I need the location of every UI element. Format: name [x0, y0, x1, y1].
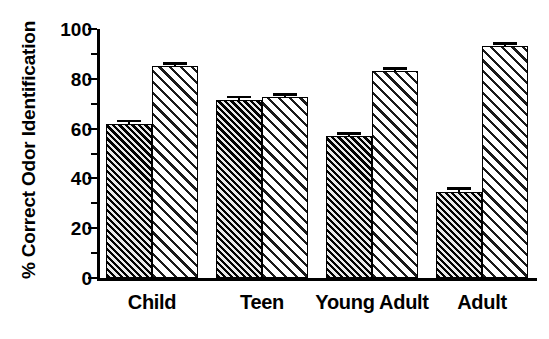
error-bar-cap	[273, 93, 297, 96]
plot-area	[97, 29, 537, 278]
x-axis-tick-label: Adult	[457, 288, 507, 316]
y-axis-tick-minor	[91, 103, 97, 105]
y-axis-tick-major	[88, 28, 97, 30]
bar	[152, 66, 198, 278]
error-bar-cap	[163, 62, 187, 65]
error-bar-cap	[337, 132, 361, 135]
bar	[372, 71, 418, 278]
y-axis-tick-minor	[91, 252, 97, 254]
error-bar-cap	[227, 96, 251, 99]
y-axis-tick-label: 80	[42, 69, 92, 88]
bar	[262, 97, 308, 278]
error-bar-cap	[117, 120, 141, 123]
x-axis-tick-label: Child	[128, 288, 177, 316]
bar	[436, 192, 482, 278]
bar	[326, 136, 372, 278]
y-axis-tick-major	[88, 227, 97, 229]
y-axis-tick-label: 20	[42, 219, 92, 238]
y-axis-title: % Correct Odor Identification	[14, 0, 44, 300]
error-bar-cap	[447, 187, 471, 190]
y-axis-tick-minor	[91, 53, 97, 55]
x-axis-tick-label: Teen	[240, 288, 284, 316]
y-axis-tick-label: 0	[42, 269, 92, 288]
y-axis-tick-major	[88, 128, 97, 130]
bar	[106, 124, 152, 278]
y-axis-tick-label: 60	[42, 119, 92, 138]
y-axis-tick-major	[88, 277, 97, 279]
y-axis-line	[97, 29, 100, 278]
y-axis-tick-minor	[91, 202, 97, 204]
x-axis-line	[97, 278, 537, 281]
x-axis-tick-labels: ChildTeenYoung AdultAdult	[97, 288, 549, 322]
x-axis-tick-label: Young Adult	[315, 288, 428, 316]
y-axis-tick-major	[88, 78, 97, 80]
bar	[216, 100, 262, 278]
bar-chart-figure: % Correct Odor Identification 0204060801…	[0, 0, 549, 339]
y-axis-tick-minor	[91, 153, 97, 155]
error-bar-cap	[383, 67, 407, 70]
y-axis-tick-major	[88, 177, 97, 179]
error-bar-cap	[493, 42, 517, 45]
y-axis-tick-labels: 020406080100	[42, 20, 92, 290]
bar	[482, 46, 528, 278]
y-axis-tick-label: 40	[42, 169, 92, 188]
y-axis-tick-label: 100	[42, 20, 92, 39]
